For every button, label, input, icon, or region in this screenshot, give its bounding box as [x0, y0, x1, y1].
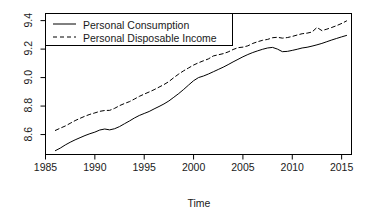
y-axis-ticks	[41, 21, 46, 135]
chart-container: 8.68.89.09.29.4 198519901995200020052010…	[0, 0, 368, 224]
x-axis-tick-label: 1990	[70, 162, 120, 173]
legend-label-personal-disposable-income: Personal Disposable Income	[83, 33, 217, 44]
y-axis-tick-label: 9.4	[22, 0, 33, 40]
x-axis-tick-label: 2000	[169, 162, 219, 173]
legend-label-personal-consumption: Personal Consumption	[83, 20, 189, 31]
series-line-personal-consumption	[55, 35, 346, 150]
x-axis-tick-label: 2015	[317, 162, 367, 173]
x-axis-tick-label: 1995	[119, 162, 169, 173]
x-axis-tick-label: 2005	[218, 162, 268, 173]
x-axis-title: Time	[149, 198, 249, 209]
x-axis-tick-label: 2010	[267, 162, 317, 173]
x-axis-tick-label: 1985	[21, 162, 71, 173]
x-axis-ticks	[46, 155, 342, 160]
